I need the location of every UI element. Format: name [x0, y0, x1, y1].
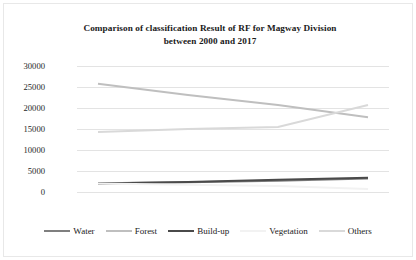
chart-title: Comparison of classification Result of R…: [40, 22, 380, 48]
y-axis-tick-label: 30000: [0, 61, 45, 71]
plot-area: 050001000015000200002500030000 200020052…: [77, 66, 389, 192]
legend-swatch-icon: [44, 230, 70, 232]
legend-item-vegetation[interactable]: Vegetation: [240, 226, 308, 236]
chart-title-line-2: between 2000 and 2017: [164, 36, 257, 46]
series-line-forest: [98, 84, 368, 118]
legend-item-forest[interactable]: Forest: [106, 226, 158, 236]
y-axis-tick-label: 15000: [0, 124, 45, 134]
legend-item-others[interactable]: Others: [319, 226, 372, 236]
chart-container: Comparison of classification Result of R…: [0, 0, 416, 260]
y-axis-tick-label: 10000: [0, 145, 45, 155]
series-line-vegetation: [98, 184, 368, 189]
series-lines: [77, 66, 389, 192]
y-axis-tick-label: 25000: [0, 82, 45, 92]
y-axis-tick-label: 0: [0, 187, 45, 197]
y-axis-tick-label: 5000: [0, 166, 45, 176]
y-axis-tick-label: 20000: [0, 103, 45, 113]
series-line-build-up: [98, 178, 368, 184]
legend-item-label: Vegetation: [269, 226, 308, 236]
legend-swatch-icon: [319, 230, 345, 232]
legend-item-label: Water: [73, 226, 94, 236]
chart-title-line-1: Comparison of classification Result of R…: [83, 23, 336, 33]
legend-swatch-icon: [168, 230, 194, 232]
legend-item-label: Forest: [135, 226, 158, 236]
legend-item-label: Others: [348, 226, 372, 236]
legend-swatch-icon: [106, 230, 132, 232]
legend-swatch-icon: [240, 230, 266, 232]
legend-item-water[interactable]: Water: [44, 226, 94, 236]
legend-item-build-up[interactable]: Build-up: [168, 226, 229, 236]
gridline: [77, 192, 389, 193]
chart-legend: WaterForestBuild-upVegetationOthers: [0, 226, 416, 236]
legend-item-label: Build-up: [197, 226, 229, 236]
series-line-others: [98, 105, 368, 132]
